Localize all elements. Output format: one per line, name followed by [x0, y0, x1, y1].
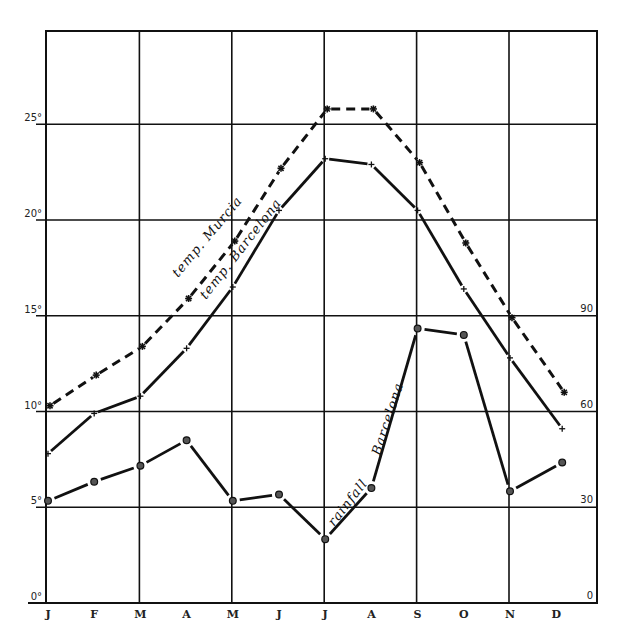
month-label: M [227, 608, 239, 621]
series-segment [145, 301, 186, 343]
marker-asterisk [139, 343, 146, 350]
climate-chart: 0°5°10°15°20°25° 0306090 JFMAMJJASOND te… [0, 0, 626, 638]
marker-circle [137, 462, 144, 469]
right-axis-ticks: 0306090 [580, 303, 593, 601]
series-segment [425, 329, 457, 333]
series-segment [98, 398, 137, 412]
marker-asterisk [47, 402, 54, 409]
marker-cross [322, 156, 328, 162]
series-segment [512, 361, 559, 425]
marker-asterisk [324, 105, 331, 112]
marker-circle [276, 491, 283, 498]
series-temp-murcia [47, 105, 568, 409]
marker-circle [183, 437, 190, 444]
marker-cross [415, 207, 421, 213]
month-label: A [181, 608, 191, 621]
series-segment [191, 446, 229, 496]
series-segment [516, 466, 556, 488]
left-tick-label: 5° [31, 495, 42, 506]
month-label: J [322, 608, 328, 621]
series-segment [283, 112, 324, 165]
series-segment [282, 162, 323, 208]
marker-asterisk [509, 314, 516, 321]
marker-circle [414, 325, 421, 332]
right-tick-label: 60 [580, 399, 593, 410]
month-label: N [505, 608, 515, 621]
marker-cross [184, 345, 190, 351]
series-rainfall-barcelona [45, 325, 566, 542]
marker-circle [559, 459, 566, 466]
month-label: D [551, 608, 561, 621]
month-label: F [90, 608, 98, 621]
marker-circle [507, 488, 514, 495]
label-temp-barcelona: temp. Barcelona [197, 195, 285, 302]
right-tick-label: 0 [587, 590, 593, 601]
month-axis-labels: JFMAMJJASOND [44, 608, 561, 621]
left-tick-label: 15° [24, 304, 42, 315]
series-segment [374, 167, 415, 207]
series-segment [100, 349, 139, 374]
marker-asterisk [370, 105, 377, 112]
label-rainfall-barcelona: Barcelona [368, 380, 406, 457]
month-label: M [134, 608, 146, 621]
marker-cross [461, 286, 467, 292]
series-segment [376, 112, 417, 160]
marker-asterisk [185, 295, 192, 302]
marker-circle [322, 536, 329, 543]
marker-asterisk [416, 159, 423, 166]
right-tick-label: 30 [580, 494, 593, 505]
series-segment [240, 495, 272, 499]
month-label: O [459, 608, 469, 621]
month-label: A [366, 608, 376, 621]
marker-asterisk [561, 389, 568, 396]
series-segment [284, 499, 320, 534]
marker-cross [368, 161, 374, 167]
month-label: J [275, 608, 281, 621]
marker-circle [45, 497, 52, 504]
series-segment [54, 484, 87, 498]
left-tick-label: 0° [31, 591, 42, 602]
series-segment [466, 342, 508, 485]
series-segment [147, 444, 181, 463]
chart-series [45, 105, 568, 542]
marker-cross [559, 426, 565, 432]
series-segment [53, 377, 93, 403]
marker-circle [229, 497, 236, 504]
series-segment [51, 416, 91, 451]
marker-circle [460, 332, 467, 339]
marker-asterisk [462, 239, 469, 246]
marker-cross [230, 284, 236, 290]
label-rainfall: rainfall [325, 476, 371, 529]
left-tick-label: 20° [24, 208, 42, 219]
right-tick-label: 90 [580, 303, 593, 314]
month-label: S [414, 608, 422, 621]
marker-asterisk [278, 165, 285, 172]
month-label: J [44, 608, 50, 621]
series-segment [143, 351, 184, 393]
marker-circle [91, 478, 98, 485]
marker-cross [507, 355, 513, 361]
left-tick-label: 10° [24, 400, 42, 411]
marker-asterisk [93, 372, 100, 379]
marker-cross [137, 393, 143, 399]
series-segment [514, 321, 562, 389]
series-segment [101, 468, 134, 479]
left-axis-ticks: 0°5°10°15°20°25° [24, 112, 42, 602]
series-segment [329, 159, 367, 164]
left-tick-label: 25° [24, 112, 42, 123]
